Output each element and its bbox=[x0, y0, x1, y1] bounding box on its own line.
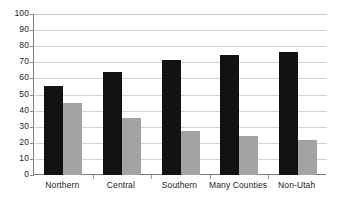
bar-series-a bbox=[279, 52, 298, 175]
bar-series-b bbox=[239, 136, 258, 175]
bar-series-b bbox=[181, 131, 200, 175]
y-axis-tick-label: 50 bbox=[3, 90, 29, 99]
bar-group bbox=[279, 14, 317, 175]
y-axis-tick-label: 90 bbox=[3, 25, 29, 34]
y-axis-tick-label: 70 bbox=[3, 57, 29, 66]
x-axis-tick-label: Southern bbox=[150, 180, 209, 191]
x-axis-labels: NorthernCentralSouthernMany CountiesNon-… bbox=[33, 180, 326, 196]
y-axis-tick-label: 30 bbox=[3, 122, 29, 131]
bar-series-a bbox=[162, 60, 181, 175]
bar-series-a bbox=[103, 72, 122, 175]
category-separator bbox=[268, 175, 269, 179]
y-axis-tick-label: 20 bbox=[3, 138, 29, 147]
y-axis-tick-label: 100 bbox=[3, 9, 29, 18]
bar-series-b bbox=[122, 118, 141, 175]
bar-group bbox=[220, 14, 258, 175]
bar-chart: 1009080706050403020100 NorthernCentralSo… bbox=[0, 0, 339, 203]
bar-series-a bbox=[220, 55, 239, 175]
y-axis-labels: 1009080706050403020100 bbox=[0, 0, 29, 203]
bar-group bbox=[103, 14, 141, 175]
x-axis-tick-label: Many Counties bbox=[209, 180, 268, 191]
x-axis-tick-label: Central bbox=[92, 180, 151, 191]
x-axis-tick-label: Non-Utah bbox=[267, 180, 326, 191]
y-axis-tick bbox=[30, 175, 34, 176]
y-axis-tick-label: 0 bbox=[3, 170, 29, 179]
bar-series-b bbox=[298, 140, 317, 175]
x-axis-tick-label: Northern bbox=[33, 180, 92, 191]
category-separator bbox=[210, 175, 211, 179]
bar-series-a bbox=[44, 86, 63, 175]
bar-group bbox=[162, 14, 200, 175]
bar-groups bbox=[34, 14, 326, 175]
y-axis-tick-label: 60 bbox=[3, 73, 29, 82]
y-axis-tick-label: 10 bbox=[3, 154, 29, 163]
y-axis-tick-label: 40 bbox=[3, 106, 29, 115]
category-separator bbox=[93, 175, 94, 179]
category-separator bbox=[151, 175, 152, 179]
bar-group bbox=[44, 14, 82, 175]
bar-series-b bbox=[63, 103, 82, 175]
y-axis-tick-label: 80 bbox=[3, 41, 29, 50]
